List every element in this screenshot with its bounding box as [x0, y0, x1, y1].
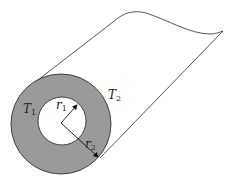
label-t2-base: T — [108, 88, 116, 102]
label-r2-sub: 2 — [91, 143, 96, 152]
label-r1-sub: 1 — [62, 104, 67, 113]
label-r1: r1 — [56, 99, 67, 113]
label-t1-sub: 1 — [31, 108, 36, 117]
tube-top-edge — [34, 12, 223, 83]
label-t1-base: T — [23, 102, 31, 116]
label-r2: r2 — [85, 138, 96, 152]
label-t2: T2 — [108, 89, 121, 103]
label-t2-sub: 2 — [116, 94, 121, 103]
label-t1: T1 — [23, 103, 36, 117]
cylinder-diagram: T1 T2 r1 r2 — [0, 0, 233, 182]
